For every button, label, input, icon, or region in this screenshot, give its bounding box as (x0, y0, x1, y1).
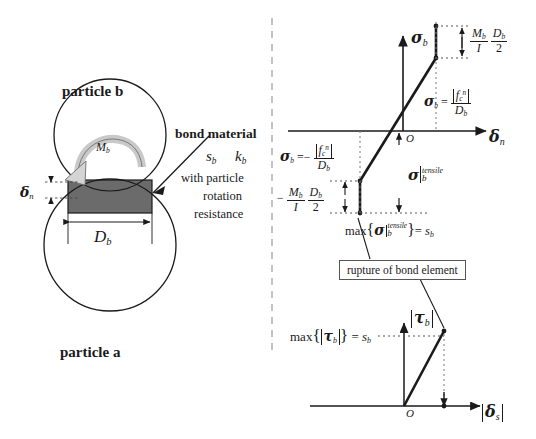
bond-note-line-3: resistance (194, 208, 243, 221)
sigma-negative-formula: σb =− fcn Db (280, 144, 334, 172)
delta-s-axis-label: δs (482, 404, 503, 422)
max-tensile-formula: max{σtensileb}= sb (345, 222, 434, 239)
rupture-callout-box[interactable]: rupture of bond element (339, 260, 466, 280)
moment-label: Mb (96, 141, 110, 155)
particle-b-label: particle b (62, 84, 123, 99)
shear-stress-curve (404, 329, 446, 409)
delta-n-label: δn (20, 185, 34, 201)
shear-plot-origin-label: O (406, 408, 414, 419)
bond-param-s: sb (206, 149, 217, 166)
delta-n-axis-label: δn (489, 129, 505, 147)
bond-material-label: bond material (175, 127, 256, 141)
bond-param-k: kb (235, 149, 246, 166)
sigma-positive-formula: σb = fcn Db (424, 89, 471, 117)
tensile-stress-label: σtensileb (408, 166, 443, 183)
tau-b-axis-label: τb (411, 310, 433, 328)
bond-note-line-1: with particle (181, 172, 244, 185)
top-moment-term: Mb I Db 2 (470, 27, 507, 54)
max-shear-formula: max{τb} = sb (290, 327, 371, 345)
normal-stress-curve (358, 24, 439, 216)
normal-plot-origin-label: O (406, 133, 414, 144)
figure-root: particle b particle a Mb δn Db bond mate… (0, 0, 536, 439)
bond-diameter-label: Db (94, 228, 112, 247)
sigma-b-axis-label: σb (411, 30, 428, 48)
bond-note-line-2: rotation (203, 190, 242, 203)
bottom-moment-term: − Mb I Db 2 (277, 186, 324, 213)
figure-vector-layer (0, 0, 536, 439)
particle-a-label: particle a (60, 345, 120, 360)
